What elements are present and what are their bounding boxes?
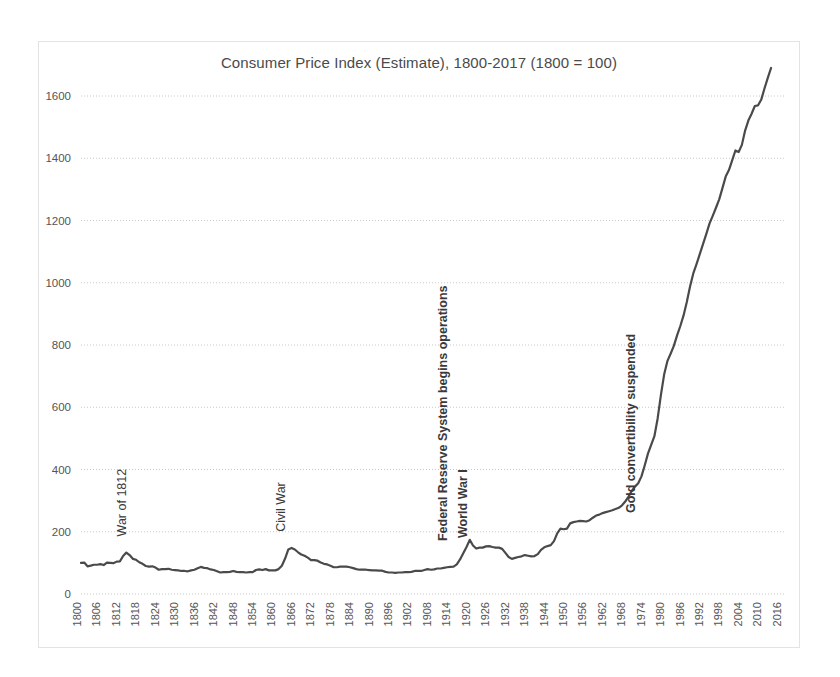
x-tick-label: 1908 [421, 602, 433, 626]
x-tick-label: 1920 [460, 602, 472, 626]
y-tick-label: 1200 [45, 215, 71, 227]
series-group [81, 68, 771, 573]
chart-annotation: War of 1812 [115, 469, 129, 537]
x-tick-label: 1956 [576, 602, 588, 626]
y-tick-label: 200 [52, 526, 71, 538]
x-tick-label: 1968 [615, 602, 627, 626]
chart-annotation: Civil War [274, 482, 288, 532]
x-tick-label: 1866 [285, 602, 297, 626]
chart-frame: Consumer Price Index (Estimate), 1800-20… [38, 41, 800, 648]
x-tick-label: 1830 [168, 602, 180, 626]
x-tick-label: 1932 [499, 602, 511, 626]
y-tick-label: 400 [52, 464, 71, 476]
x-tick-label: 1860 [265, 602, 277, 626]
x-tick-label: 1914 [440, 602, 452, 626]
x-tick-label: 1902 [401, 602, 413, 626]
x-tick-label: 1986 [674, 602, 686, 626]
y-tick-label: 1600 [45, 90, 71, 102]
x-tick-label: 1938 [518, 602, 530, 626]
x-tick-label: 2004 [732, 602, 744, 626]
annotations-group: War of 1812Civil WarFederal Reserve Syst… [115, 285, 638, 541]
x-tick-label: 1896 [382, 602, 394, 626]
x-tick-label: 1884 [343, 602, 355, 626]
x-tick-label: 1944 [538, 602, 550, 626]
chart-annotation: Gold convertibility suspended [624, 334, 638, 513]
x-tick-label: 1950 [557, 602, 569, 626]
x-tick-label: 1800 [71, 602, 83, 626]
x-tick-label: 1818 [129, 602, 141, 626]
x-tick-label: 1806 [90, 602, 102, 626]
x-axis-tick-labels: 1800180618121818182418301836184218481854… [71, 602, 783, 626]
x-tick-label: 1980 [654, 602, 666, 626]
x-tick-label: 1848 [227, 602, 239, 626]
x-tick-label: 1992 [693, 602, 705, 626]
x-tick-label: 1878 [324, 602, 336, 626]
y-tick-label: 1000 [45, 277, 71, 289]
x-tick-label: 1836 [188, 602, 200, 626]
y-tick-label: 800 [52, 339, 71, 351]
gridlines-group [81, 96, 784, 594]
x-tick-label: 1812 [110, 602, 122, 626]
x-tick-label: 2016 [771, 602, 783, 626]
chart-annotation: Federal Reserve System begins operations [436, 285, 450, 541]
x-tick-label: 1842 [207, 602, 219, 626]
x-tick-label: 1854 [246, 602, 258, 626]
y-axis-tick-labels: 02004006008001000120014001600 [45, 90, 71, 600]
x-tick-label: 1974 [635, 602, 647, 626]
x-tick-label: 1872 [304, 602, 316, 626]
x-tick-label: 1962 [596, 602, 608, 626]
y-tick-label: 600 [52, 401, 71, 413]
line-chart-plot: 02004006008001000120014001600 1800180618… [39, 42, 801, 649]
x-tick-label: 1890 [363, 602, 375, 626]
series-line [81, 68, 771, 573]
chart-annotation: World War I [456, 469, 470, 538]
y-tick-label: 0 [65, 588, 71, 600]
x-tick-label: 2010 [751, 602, 763, 626]
x-tick-label: 1926 [479, 602, 491, 626]
y-tick-label: 1400 [45, 152, 71, 164]
x-tick-label: 1824 [149, 602, 161, 626]
x-tick-label: 1998 [712, 602, 724, 626]
